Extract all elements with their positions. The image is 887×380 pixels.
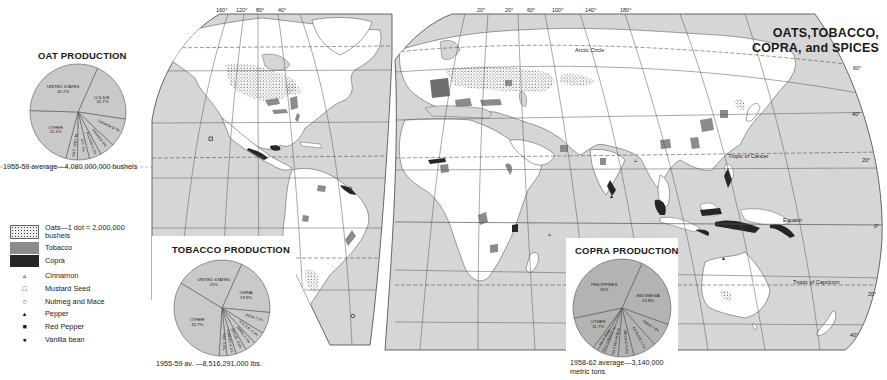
pie-slice-label: OTHER32.7%: [190, 317, 205, 327]
equator-label: Equator: [783, 217, 802, 223]
svg-text:▴: ▴: [722, 254, 725, 261]
title-line-2: COPRA, and SPICES: [752, 41, 879, 56]
svg-text:20°: 20°: [868, 291, 876, 297]
map-title: OATS,TOBACCO, COPRA, and SPICES: [752, 26, 879, 56]
legend-item-vanilla: ● Vanilla bean: [10, 334, 155, 347]
legend-label: Red Pepper: [45, 323, 84, 331]
lon-label: 80°: [256, 7, 264, 13]
legend-item-red-pepper: ■ Red Pepper: [10, 321, 155, 334]
svg-text:▵: ▵: [634, 156, 637, 163]
tobacco-pie: CHINA19.8%INDIA 7.3%U.S.S.R. 4.2%JAPAN 3…: [172, 258, 272, 358]
lon-label: 60°: [527, 7, 535, 13]
svg-text:20°: 20°: [862, 157, 870, 163]
legend-label: Nutmeg and Mace: [45, 298, 105, 306]
longitude-labels: 160° 120° 80° 40° 20° 20° 60° 100° 140° …: [216, 7, 631, 13]
pepper-symbol: ▴: [610, 192, 613, 199]
oat-chart-title: OAT PRODUCTION: [38, 50, 127, 61]
legend-label: Cinnamon: [45, 272, 78, 280]
legend-label-cont: bushels: [45, 232, 125, 240]
lon-label: 180°: [620, 7, 631, 13]
tobacco-production-inset: TOBACCO PRODUCTION CHINA19.8%INDIA 7.3%U…: [152, 236, 296, 376]
nutmeg-icon: ○: [10, 297, 39, 307]
legend-item-tobacco: Tobacco: [10, 242, 155, 255]
oats-swatch: [10, 225, 39, 239]
tobacco-region-asia: [700, 118, 714, 132]
tobacco-swatch: [10, 242, 39, 254]
legend-item-mustard-seed: □ Mustard Seed: [10, 282, 155, 295]
arctic-circle-label: Arctic Circle: [575, 47, 604, 53]
tobacco-chart-caption: 1955-59 av. —8,516,291,000 lbs.: [156, 360, 262, 369]
mustard-seed-icon: □: [10, 284, 39, 294]
pepper-icon: ▴: [10, 309, 39, 319]
lon-label: 20°: [505, 7, 513, 13]
oat-chart-caption: 1955-59 average—4,080,000,000 bushels: [3, 163, 137, 172]
pie-slice-label: U.S.S.R.20.7%: [94, 95, 110, 105]
pie-slice-label: CHINA19.8%: [240, 290, 253, 300]
legend-item-cinnamon: ▵ Cinnamon: [10, 270, 155, 283]
pie-slice-label: OTHER21.4%: [48, 125, 63, 135]
tobacco-chart-title: TOBACCO PRODUCTION: [172, 244, 290, 255]
tropic-cancer-label: Tropic of Cancer: [728, 153, 769, 159]
legend-item-pepper: ▴ Pepper: [10, 308, 155, 321]
map-legend: Oats—1 dot = 2,000,000 bushels Tobacco C…: [10, 222, 155, 346]
pie-slice-label: PAK. 2.6%: [221, 333, 225, 351]
copra-chart-title: COPRA PRODUCTION: [575, 245, 679, 256]
svg-text:40°: 40°: [850, 332, 858, 338]
cinnamon-symbol: ▵: [548, 230, 551, 237]
vanilla-bean-icon: ●: [10, 335, 39, 345]
lon-label: 100°: [552, 7, 563, 13]
copra-swatch: [10, 255, 39, 267]
legend-item-oats: Oats—1 dot = 2,000,000 bushels: [10, 222, 155, 242]
legend-label: Vanilla bean: [45, 336, 85, 344]
lon-label: 40°: [278, 7, 286, 13]
legend-label: Tobacco: [45, 244, 72, 252]
lon-label: 120°: [236, 7, 247, 13]
oat-production-chart: OAT PRODUCTION: [38, 50, 127, 61]
pie-slice-label: OTHER11.7%: [591, 319, 606, 329]
svg-text:60°: 60°: [853, 65, 861, 71]
red-pepper-icon: ■: [10, 322, 39, 332]
legend-label: Pepper: [45, 310, 69, 318]
title-line-1: OATS,TOBACCO,: [752, 26, 879, 41]
copra-pie: INDONESIA23.8%INDIA 7.9%CEYLON 7.7%MEXIC…: [571, 257, 673, 359]
lon-label: 160°: [216, 7, 227, 13]
svg-text:0°: 0°: [874, 223, 879, 229]
lon-label: 140°: [585, 7, 596, 13]
lon-label: 20°: [477, 7, 485, 13]
svg-text:40°: 40°: [852, 111, 860, 117]
copra-production-inset: COPRA PRODUCTION INDONESIA23.8%INDIA 7.9…: [566, 238, 678, 380]
tropic-capricorn-label: Tropic of Capricorn: [793, 279, 840, 285]
cinnamon-icon: ▵: [10, 271, 39, 281]
tobacco-region-eu: [430, 78, 450, 98]
legend-item-nutmeg: ○ Nutmeg and Mace: [10, 295, 155, 308]
oat-pie: U.S.S.R.20.7%CANADA 9.7%FRANCE 5%POLAND …: [28, 62, 128, 162]
legend-item-copra: Copra: [10, 255, 155, 268]
legend-label: Copra: [45, 257, 65, 265]
legend-label: Mustard Seed: [45, 285, 90, 293]
copra-chart-caption-cont: metric tons: [570, 368, 664, 377]
